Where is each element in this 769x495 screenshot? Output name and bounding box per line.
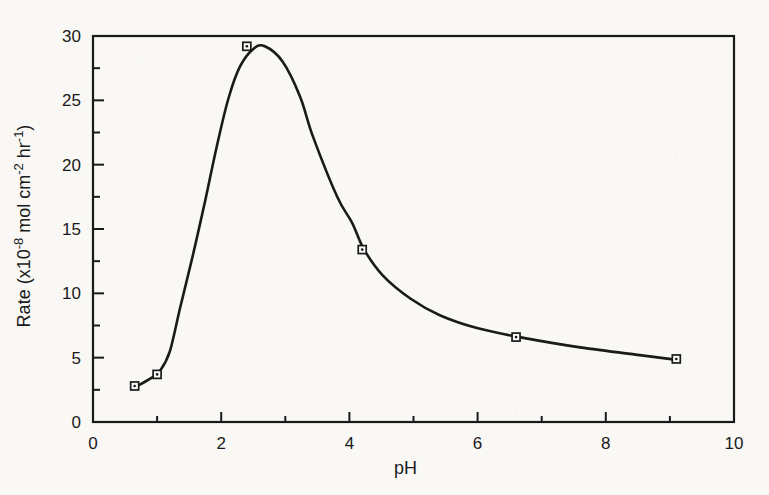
data-point-center-dot [133,385,136,388]
y-tick-label: 15 [62,220,81,239]
x-tick-label: 0 [88,434,97,453]
x-axis-label: pH [394,458,417,478]
data-point-center-dot [675,358,678,361]
fit-curve [133,45,675,388]
y-tick-label: 0 [72,413,81,432]
data-point-center-dot [515,336,518,339]
y-tick-label: 30 [62,27,81,46]
x-tick-label: 6 [473,434,482,453]
x-tick-label: 8 [601,434,610,453]
scanned-figure: 0510152025300246810pHRate (x10-8 mol cm-… [0,0,769,495]
y-axis-label: Rate (x10-8 mol cm-2 hr-1) [11,125,34,328]
data-point-center-dot [361,248,364,251]
y-tick-label: 25 [62,91,81,110]
y-tick-label: 5 [72,349,81,368]
ph-rate-chart: 0510152025300246810pHRate (x10-8 mol cm-… [0,0,769,495]
data-point-center-dot [246,45,249,48]
y-tick-label: 10 [62,284,81,303]
x-tick-label: 10 [725,434,744,453]
x-tick-label: 2 [216,434,225,453]
x-tick-label: 4 [345,434,354,453]
y-tick-label: 20 [62,156,81,175]
plot-frame [93,36,734,422]
data-point-center-dot [156,373,159,376]
